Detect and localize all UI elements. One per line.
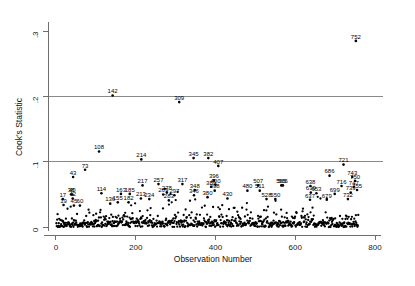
labeled-point — [207, 157, 210, 160]
observation-label: 511 — [255, 183, 265, 189]
labeled-point — [168, 199, 171, 202]
labeled-point — [340, 185, 343, 188]
y-tick-label: .1 — [31, 161, 40, 168]
observation-label: 43 — [70, 170, 77, 176]
labeled-point — [73, 204, 76, 207]
observation-label: 653 — [311, 186, 322, 192]
labeled-point — [217, 165, 220, 168]
labeled-point — [157, 183, 160, 186]
observation-labels: 7521423091082143453824077217343686743750… — [59, 34, 362, 205]
labeled-point — [181, 183, 184, 186]
labeled-point — [246, 189, 249, 192]
labeled-point — [282, 184, 285, 187]
plot-canvas: 7521423091082143453824077217343686743750… — [0, 0, 415, 286]
observation-label: 382 — [203, 151, 214, 157]
y-axis: 0.1.2.3 — [31, 22, 48, 232]
labeled-point — [140, 197, 143, 200]
labeled-point — [309, 198, 312, 201]
labeled-point — [109, 202, 112, 205]
labeled-point — [355, 40, 358, 43]
observation-label: 346 — [189, 188, 200, 194]
labeled-point — [226, 197, 229, 200]
x-axis: 0200400600800 — [44, 235, 382, 252]
observation-label: 73 — [82, 163, 89, 169]
labeled-point — [356, 189, 359, 192]
observation-label: 317 — [177, 177, 188, 183]
labeled-point — [333, 193, 336, 196]
labeled-point — [79, 204, 82, 207]
observation-label: 480 — [242, 183, 253, 189]
x-tick-label: 400 — [209, 243, 223, 252]
observation-label: 185 — [125, 187, 136, 193]
observation-label: 142 — [108, 88, 119, 94]
observation-label: 638 — [305, 179, 316, 185]
observation-label: 732 — [343, 192, 354, 198]
labeled-point — [111, 94, 114, 97]
observation-label: 739 — [346, 185, 357, 191]
labeled-point — [98, 150, 101, 153]
observation-label: 721 — [339, 157, 350, 163]
observation-label: 182 — [124, 195, 135, 201]
labeled-point — [274, 198, 277, 201]
labeled-point — [342, 163, 345, 166]
labeled-point — [116, 201, 119, 204]
observation-label: 398 — [210, 183, 221, 189]
labeled-point — [325, 198, 328, 201]
labeled-point — [178, 101, 181, 104]
labeled-point — [328, 174, 331, 177]
observation-label: 234 — [144, 192, 155, 198]
observation-label: 42 — [69, 191, 76, 197]
observation-label: 716 — [337, 179, 348, 185]
labeled-point — [127, 201, 130, 204]
labeled-point — [84, 169, 87, 172]
y-tick-label: 0 — [31, 227, 40, 232]
observation-label: 679 — [322, 193, 333, 199]
y-axis-title: Cook's Statistic — [14, 97, 24, 156]
x-tick-label: 0 — [54, 243, 59, 252]
labeled-point — [140, 158, 143, 161]
observation-label: 114 — [97, 186, 107, 192]
observation-label: 550 — [270, 192, 281, 198]
observation-label: 217 — [138, 178, 149, 184]
observation-label: 430 — [222, 191, 233, 197]
observation-label: 380 — [203, 190, 214, 196]
y-tick-label: .3 — [31, 31, 40, 38]
labeled-point — [141, 184, 144, 187]
observation-label: 345 — [189, 151, 200, 157]
observation-label: 257 — [153, 177, 164, 183]
observation-label: 60 — [77, 198, 84, 204]
labeled-point — [192, 157, 195, 160]
observation-label: 136 — [105, 196, 116, 202]
x-tick-label: 600 — [289, 243, 303, 252]
observation-label: 19 — [60, 198, 67, 204]
observation-label: 214 — [136, 152, 147, 158]
labeled-point — [347, 198, 350, 201]
y-tick-label: .2 — [31, 96, 40, 103]
observation-label: 752 — [351, 34, 362, 40]
labeled-point — [193, 194, 196, 197]
labeled-point — [315, 192, 318, 195]
x-axis-title: Observation Number — [174, 254, 253, 264]
labeled-point — [265, 198, 268, 201]
labeled-point — [62, 204, 65, 207]
observation-label: 108 — [94, 144, 105, 150]
observation-label: 309 — [174, 95, 185, 101]
x-tick-label: 200 — [129, 243, 143, 252]
labeled-point — [206, 196, 209, 199]
observation-label: 283 — [164, 193, 175, 199]
x-tick-label: 800 — [368, 243, 382, 252]
labeled-point — [100, 192, 103, 195]
observation-label: 407 — [213, 159, 224, 165]
cooks-distance-scatter-plot: 7521423091082143453824077217343686743750… — [0, 0, 415, 286]
observation-label: 637 — [305, 193, 316, 199]
labeled-point — [213, 189, 216, 192]
observation-label: 566 — [278, 178, 289, 184]
labeled-point — [72, 176, 75, 179]
chart-page: 7521423091082143453824077217343686743750… — [0, 0, 415, 286]
labeled-point — [148, 198, 151, 201]
observation-label: 686 — [325, 168, 336, 174]
